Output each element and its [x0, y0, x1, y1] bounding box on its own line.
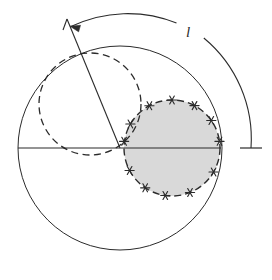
geometry-diagram: l: [0, 0, 272, 280]
figure-root: l: [0, 0, 272, 280]
radius-top-stub: [63, 19, 67, 30]
arc-measure-left-segment: [71, 14, 177, 27]
dashed-circle: [39, 53, 141, 155]
radius-line: [67, 19, 120, 148]
arc-length-label: l: [186, 24, 190, 40]
